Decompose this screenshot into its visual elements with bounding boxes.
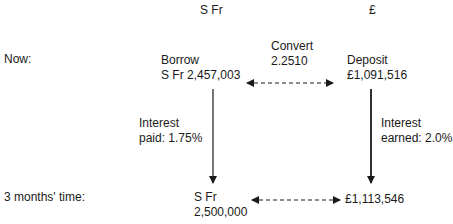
arrows-layer	[0, 0, 453, 224]
